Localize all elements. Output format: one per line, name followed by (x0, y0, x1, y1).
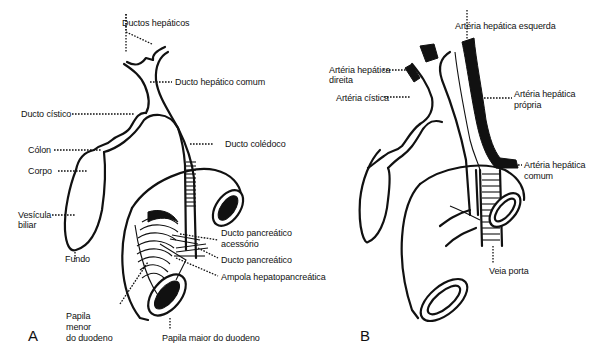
label-ducto-pancreatico-acessorio-line2: acessório (221, 239, 259, 249)
label-arteria-hepatica-comum-line2: comum (524, 171, 553, 181)
label-corpo: Corpo (28, 166, 52, 176)
panel-a-drawing (52, 14, 249, 330)
label-ducto-pancreatico-acessorio-line1: Ducto pancreático (221, 228, 292, 238)
label-colon: Cólon (28, 145, 51, 155)
label-papila-menor-line1: Papila (66, 311, 90, 321)
label-veia-porta: Veia porta (489, 266, 529, 276)
panel-letter-a: A (28, 327, 38, 344)
label-papila-maior: Papila maior do duodeno (162, 333, 260, 343)
label-ampola-hepatopancreatica: Ampola hepatopancreática (221, 272, 326, 282)
label-arteria-hepatica-propria-line2: própria (514, 100, 541, 110)
label-papila-menor-line3: do duodeno (66, 333, 113, 343)
label-arteria-hepatica-direita-line2: direita (329, 75, 353, 85)
label-arteria-hepatica-esquerda: Artéria hepática esquerda (455, 21, 556, 31)
panel-b-drawing (360, 10, 527, 329)
label-papila-menor-line2: menor (66, 322, 91, 332)
label-ducto-hepatico-comum: Ducto hepático comum (175, 77, 265, 87)
label-ducto-cistico: Ducto cístico (21, 109, 71, 119)
label-ducto-coledoco: Ducto colédoco (225, 139, 286, 149)
label-arteria-hepatica-direita-line1: Artéria hepática (329, 65, 390, 75)
label-vesicula-biliar-line1: Vesícula (18, 210, 51, 220)
panel-letter-b: B (360, 327, 370, 344)
label-arteria-cistica: Artéria cística (336, 93, 389, 103)
label-arteria-hepatica-propria-line1: Artéria hepática (514, 89, 575, 99)
label-vesicula-biliar-line2: biliar (18, 220, 36, 230)
biliary-anatomy-illustration (0, 0, 601, 362)
label-arteria-hepatica-comum-line1: Artéria hepática (524, 160, 585, 170)
label-ductos-hepaticos: Ductos hepáticos (122, 18, 189, 28)
label-fundo: Fundo (65, 254, 90, 264)
label-ducto-pancreatico: Ducto pancreático (221, 255, 292, 265)
